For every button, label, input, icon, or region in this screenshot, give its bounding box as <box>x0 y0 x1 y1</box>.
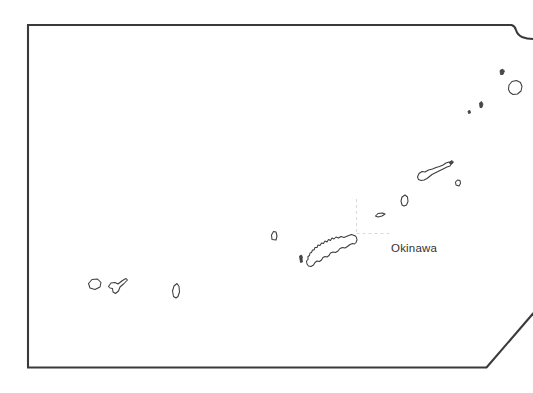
island-kakeroma-jima <box>450 161 454 165</box>
island-amami-oshima <box>418 162 452 181</box>
frame-bottom-right-diagonal <box>487 313 533 368</box>
graticule-group <box>357 199 393 234</box>
island-tokara-dot-1 <box>468 111 471 114</box>
island-okinoerabu-jima <box>401 195 408 206</box>
map-canvas: Okinawa <box>0 0 533 393</box>
island-kume-jima <box>272 232 278 241</box>
island-kerama-shoto <box>300 259 303 263</box>
island-okinawa-honto <box>307 235 358 267</box>
island-iheya-jima <box>376 213 386 217</box>
island-miyako-jima <box>173 284 180 299</box>
frame-top-right-notch <box>512 25 533 39</box>
coastline-group <box>89 69 523 298</box>
island-ishigaki-iriomote <box>109 279 128 294</box>
island-kikai-jima <box>456 180 461 186</box>
map-vector-layer <box>0 0 533 393</box>
island-yonaguni-jima <box>89 279 102 290</box>
island-yakushima <box>509 81 523 95</box>
prefecture-frame-group <box>27 25 533 368</box>
island-tokara-dot-2 <box>480 102 484 108</box>
map-label-okinawa: Okinawa <box>391 242 437 254</box>
island-kuchinoerabu-jima <box>500 69 505 75</box>
